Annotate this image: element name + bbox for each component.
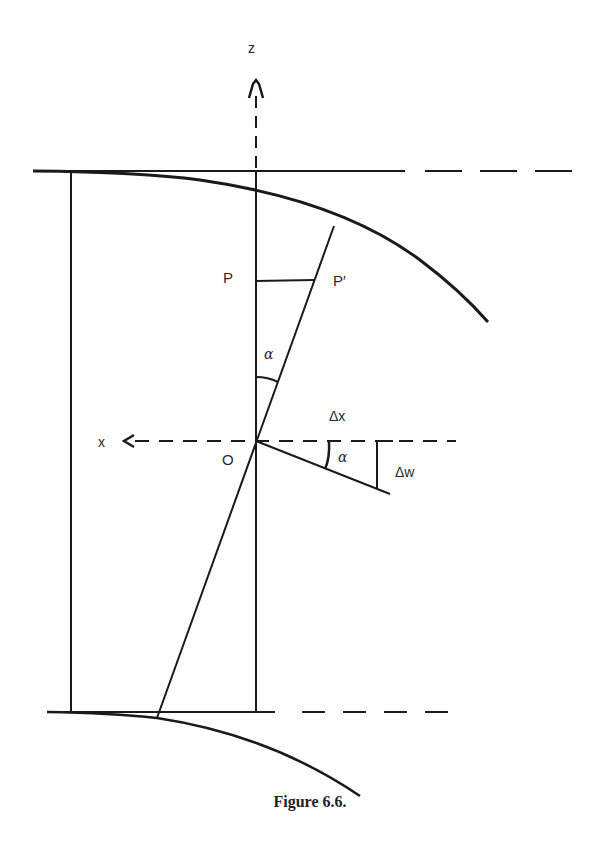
point-p-prime-label: P′ xyxy=(333,273,346,288)
p-to-p-prime-segment xyxy=(256,280,314,281)
bottom-deflected-curve xyxy=(47,712,360,796)
upper-alpha-label: α xyxy=(264,347,273,361)
top-deflected-curve xyxy=(33,171,488,322)
rotated-section-line xyxy=(157,226,334,718)
x-axis-label: x xyxy=(98,435,105,449)
upper-alpha-arc xyxy=(256,377,278,382)
slope-line xyxy=(256,441,390,494)
origin-label: O xyxy=(222,452,234,467)
lower-alpha-arc xyxy=(325,441,329,469)
x-axis-arrowhead xyxy=(124,435,134,447)
delta-x-label: Δx xyxy=(329,409,345,423)
beam-deflection-diagram xyxy=(0,0,595,844)
lower-alpha-label: α xyxy=(338,450,347,464)
figure-caption: Figure 6.6. xyxy=(0,793,595,811)
z-axis-label: z xyxy=(248,41,255,55)
point-p-label: P xyxy=(223,270,233,285)
z-axis-arrowhead xyxy=(249,80,263,98)
delta-w-label: Δw xyxy=(395,465,414,479)
